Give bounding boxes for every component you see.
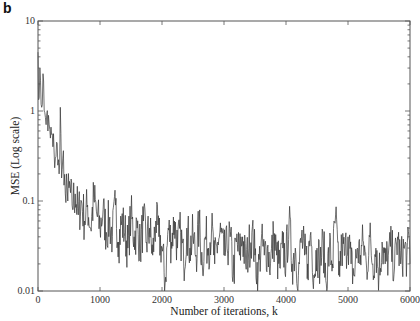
- mse-series: [38, 52, 410, 291]
- x-tick-label: 6000: [400, 294, 420, 305]
- mse-chart: 01000200030004000500060000.010.1110 Numb…: [0, 0, 420, 321]
- x-tick-label: 3000: [214, 294, 234, 305]
- x-axis-title: Number of iterations, k: [170, 305, 278, 318]
- y-tick-label: 0.01: [18, 285, 36, 296]
- x-tick-label: 5000: [338, 294, 358, 305]
- mse-line: [38, 52, 410, 291]
- y-axis-title: MSE (Log scale): [9, 117, 22, 196]
- x-tick-label: 1000: [90, 294, 110, 305]
- y-tick-label: 0.1: [23, 195, 36, 206]
- y-tick-label: 10: [25, 15, 35, 26]
- x-tick-label: 0: [36, 294, 41, 305]
- x-tick-label: 4000: [276, 294, 296, 305]
- x-tick-label: 2000: [152, 294, 172, 305]
- y-tick-label: 1: [30, 105, 35, 116]
